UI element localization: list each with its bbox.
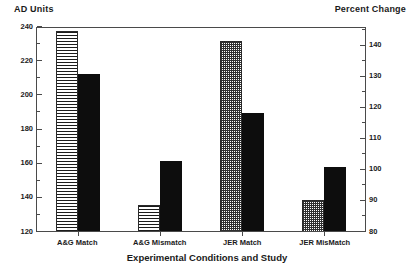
bar [78,74,100,231]
x-axis-tick [78,231,79,236]
left-axis-tick-label: 140 [20,193,33,201]
chart-page: { "chart_data": { "type": "bar", "title"… [0,0,414,274]
left-axis-tick-label: 200 [20,91,33,99]
bar [242,113,264,231]
plot-area: 120140160180200220240 809010011012013014… [36,27,366,232]
left-axis-tick [37,26,42,27]
bar-group [119,28,201,231]
x-axis-tick [324,231,325,236]
right-axis-title: Percent Change [335,4,406,14]
bar [160,161,182,231]
left-axis-tick [37,231,42,232]
right-axis-tick-label: 110 [369,134,381,142]
x-axis-tick [242,231,243,236]
left-axis-title: AD Units [14,4,54,14]
bar-group [201,28,283,231]
left-axis-tick-label: 220 [20,57,33,65]
right-axis-tick-label: 130 [369,72,382,80]
right-axis-tick-label: 100 [369,165,382,173]
right-axis-tick-label: 80 [369,228,377,236]
left-axis-tick-label: 120 [20,228,33,236]
x-axis-category-label: A&G Match [57,238,97,247]
left-axis-tick-label: 240 [20,23,33,31]
bar-series-container [37,28,365,231]
x-axis-tick [160,231,161,236]
x-axis-category-label: JER MisMatch [299,238,350,247]
bar-group [283,28,365,231]
right-axis-tick-label: 120 [369,103,382,111]
bar [220,41,242,231]
bar [56,31,78,231]
right-axis-tick-label: 90 [369,196,377,204]
left-axis-tick-label: 180 [20,125,33,133]
bar [302,200,324,231]
x-axis-category-label: JER Match [223,238,261,247]
left-axis-tick-label: 160 [20,159,33,167]
right-axis-tick [360,231,365,232]
x-axis-title: Experimental Conditions and Study [0,252,414,263]
bar [324,167,346,231]
right-axis-tick-label: 140 [369,41,382,49]
x-axis-category-label: A&G Mismatch [133,238,186,247]
bar-group [37,28,119,231]
bar [138,205,160,231]
